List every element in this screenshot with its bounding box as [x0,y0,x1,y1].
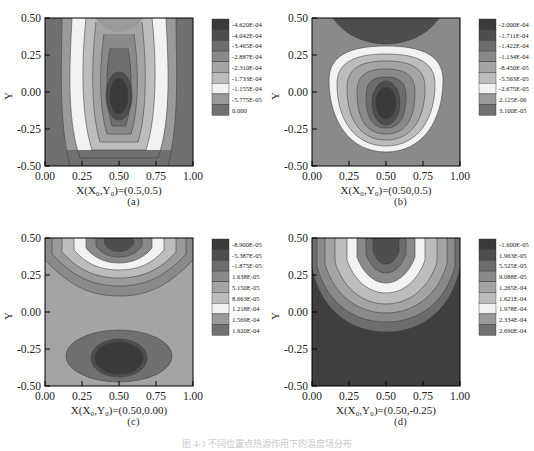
x-tick-2: 0.50 [109,390,129,402]
panel-b-cb-label-5: -5.563E-05 [499,75,530,82]
panel-b-cb-label-3: -1.134E-04 [499,53,530,60]
panel-a-svg: 0.00 0.25 0.50 0.75 1.00 0.50 0.25 0.00 … [0,0,267,200]
panel-a-cb-label-2: -3.465E-04 [232,42,263,49]
y-tick-4: -0.50 [284,160,308,172]
x-tick-3: 0.75 [146,170,166,182]
panel-c-svg: 0.00 0.25 0.50 0.75 1.00 0.50 0.25 0.00 … [0,220,267,420]
x-tick-1: 0.25 [339,390,359,402]
y-tick-4: -0.50 [17,380,41,392]
figure-bottom-caption: 图 4-3 不同位置点热源作用下的温度场分布 [0,437,534,450]
panel-d-cb-label-8: 2.690E-04 [499,327,527,334]
x-tick-4: 1.00 [183,390,203,402]
panel-d-cb-label-0: -1.600E-05 [499,241,530,248]
panel-d-cb-label-2: 5.525E-05 [499,262,527,269]
panel-b-contour-fills [312,18,460,166]
panel-b-label: (b) [267,196,534,207]
y-tick-3: -0.25 [284,123,308,135]
panel-a-cb-label-8: 0.000 [232,107,248,114]
y-tick-3: -0.25 [17,123,41,135]
x-tick-4: 1.00 [450,170,470,182]
y-tick-2: 0.00 [288,86,308,98]
panel-b-cb-label-8: 3.100E-05 [499,107,527,114]
panel-a-cb-label-0: -4.620E-04 [232,21,263,28]
panel-d-cb-label-3: 9.088E-05 [499,273,527,280]
panel-d-svg: 0.00 0.25 0.50 0.75 1.00 0.50 0.25 0.00 … [267,220,534,420]
panel-b-cb-label-2: -1.422E-04 [499,42,530,49]
panel-b-svg: 0.00 0.25 0.50 0.75 1.00 0.50 0.25 0.00 … [267,0,534,200]
y-tick-0: 0.50 [21,232,41,244]
panel-d: 0.00 0.25 0.50 0.75 1.00 0.50 0.25 0.00 … [267,220,534,442]
x-tick-2: 0.50 [376,170,396,182]
x-tick-1: 0.25 [339,170,359,182]
panel-d-plot: 0.00 0.25 0.50 0.75 1.00 0.50 0.25 0.00 … [267,220,534,420]
panel-c-cb-label-3: 1.638E-05 [232,273,260,280]
y-tick-1: 0.25 [288,49,308,61]
y-tick-2: 0.00 [288,306,308,318]
panel-d-cb-label-1: 1.963E-05 [499,252,527,259]
x-tick-4: 1.00 [183,170,203,182]
panel-a-cb-label-1: -4.042E-04 [232,32,263,39]
y-tick-4: -0.50 [17,160,41,172]
panel-c-ylabel: Y [2,312,14,320]
panel-d-cb-label-6: 1.978E-04 [499,305,527,312]
y-tick-1: 0.25 [288,269,308,281]
x-tick-3: 0.75 [413,170,433,182]
panel-a-cb-label-5: -1.733E-04 [232,75,263,82]
y-tick-3: -0.25 [17,343,41,355]
figure-contour-grid: 0.00 0.25 0.50 0.75 1.00 0.50 0.25 0.00 … [0,0,534,451]
panel-c: 0.00 0.25 0.50 0.75 1.00 0.50 0.25 0.00 … [0,220,267,442]
x-tick-2: 0.50 [376,390,396,402]
panel-c-colorbar: -8.900E-05 -5.387E-05 -1.875E-05 1.638E-… [212,239,263,335]
y-tick-2: 0.00 [21,86,41,98]
panel-c-plot: 0.00 0.25 0.50 0.75 1.00 0.50 0.25 0.00 … [0,220,267,420]
panel-a-ylabel: Y [2,92,14,100]
panel-c-cb-label-5: 8.663E-05 [232,295,260,302]
panel-a-cb-label-4: -2.310E-04 [232,64,263,71]
y-tick-2: 0.00 [21,306,41,318]
x-tick-3: 0.75 [413,390,433,402]
panel-b-cb-label-4: -8.450E-05 [499,64,530,71]
y-tick-1: 0.25 [21,49,41,61]
panel-a-cb-label-3: -2.887E-04 [232,53,263,60]
panel-c-cb-label-7: 1.569E-04 [232,316,260,323]
y-tick-0: 0.50 [288,12,308,24]
panel-c-cb-label-8: 1.920E-04 [232,327,260,334]
panel-d-label: (d) [267,416,534,427]
y-tick-4: -0.50 [284,380,308,392]
panel-b-cb-label-6: -2.675E-05 [499,85,530,92]
panel-d-cb-label-7: 2.334E-04 [499,316,527,323]
panel-d-ylabel: Y [269,312,281,320]
y-tick-0: 0.50 [21,12,41,24]
panel-a-contour-fills [45,18,193,166]
x-tick-3: 0.75 [146,390,166,402]
panel-c-cb-label-4: 5.150E-05 [232,284,260,291]
y-tick-3: -0.25 [284,343,308,355]
panel-b-cb-label-7: 2.125E-06 [499,96,527,103]
panel-a-cb-label-6: -1.155E-04 [232,85,263,92]
panel-b-cb-label-1: -1.711E-04 [499,32,529,39]
panel-a-label: (a) [0,196,267,207]
panel-c-contour-fills [45,238,193,386]
panel-d-cb-label-5: 1.621E-04 [499,295,527,302]
panel-c-label: (c) [0,416,267,427]
panel-d-cb-label-4: 1.265E-04 [499,284,527,291]
panel-a-plot: 0.00 0.25 0.50 0.75 1.00 0.50 0.25 0.00 … [0,0,267,200]
panel-b-cb-label-0: -2.000E-04 [499,21,530,28]
panel-c-cb-label-1: -5.387E-05 [232,252,263,259]
panel-d-colorbar: -1.600E-05 1.963E-05 5.525E-05 9.088E-05… [479,239,530,335]
panel-d-contour-fills [312,238,460,386]
x-tick-1: 0.25 [72,390,92,402]
x-tick-4: 1.00 [450,390,470,402]
x-tick-1: 0.25 [72,170,92,182]
y-tick-0: 0.50 [288,232,308,244]
x-tick-2: 0.50 [109,170,129,182]
panel-c-cb-label-2: -1.875E-05 [232,262,263,269]
panel-c-cb-label-6: 1.218E-04 [232,305,260,312]
panel-b-plot: 0.00 0.25 0.50 0.75 1.00 0.50 0.25 0.00 … [267,0,534,200]
panel-a-colorbar: -4.620E-04 -4.042E-04 -3.465E-04 -2.887E… [212,19,263,115]
panel-a: 0.00 0.25 0.50 0.75 1.00 0.50 0.25 0.00 … [0,0,267,222]
panel-b-ylabel: Y [269,92,281,100]
panel-b-colorbar: -2.000E-04 -1.711E-04 -1.422E-04 -1.134E… [479,19,530,115]
panel-c-cb-label-0: -8.900E-05 [232,241,263,248]
panel-a-cb-label-7: -5.775E-05 [232,96,263,103]
